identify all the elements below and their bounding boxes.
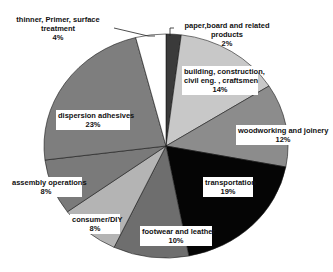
label-footwear: footwear and leather 10% <box>140 226 212 246</box>
label-paper: paper,board and related products 2% <box>175 20 279 49</box>
label-footwear-pct: 10% <box>142 236 210 245</box>
label-thinner-line2: treatment <box>4 24 112 33</box>
label-building-pct: 14% <box>184 85 256 94</box>
label-assembly-line1: assembly operations <box>12 178 80 187</box>
label-building: building, construction, civil eng. , cra… <box>182 66 258 95</box>
label-transport-line1: transportation <box>205 178 251 187</box>
label-paper-line1: paper,board and related <box>177 21 277 30</box>
label-thinner-line1: thinner, Primer, surface <box>4 15 112 24</box>
label-consumer: consumer/DIY 8% <box>70 214 120 234</box>
label-wood: woodworking and joinery 12% <box>236 125 330 145</box>
label-wood-pct: 12% <box>238 135 328 144</box>
leader-line-thinner <box>114 28 155 36</box>
label-paper-pct: 2% <box>177 39 277 48</box>
label-dispersion-line1: dispersion adhesives <box>58 111 128 120</box>
label-dispersion-pct: 23% <box>58 120 128 129</box>
label-building-line2: civil eng. , craftsmen <box>184 76 256 85</box>
label-consumer-pct: 8% <box>72 224 118 233</box>
label-assembly-pct: 8% <box>12 187 80 196</box>
label-thinner-pct: 4% <box>4 33 112 42</box>
label-transport-pct: 19% <box>205 187 251 196</box>
label-building-line1: building, construction, <box>184 67 256 76</box>
label-assembly: assembly operations 8% <box>10 177 82 197</box>
label-transport: transportation 19% <box>203 177 253 197</box>
label-consumer-line1: consumer/DIY <box>72 215 118 224</box>
label-wood-line1: woodworking and joinery <box>238 126 328 135</box>
label-dispersion: dispersion adhesives 23% <box>56 110 130 130</box>
label-paper-line2: products <box>177 30 277 39</box>
label-footwear-line1: footwear and leather <box>142 227 210 236</box>
label-thinner: thinner, Primer, surface treatment 4% <box>2 14 114 43</box>
